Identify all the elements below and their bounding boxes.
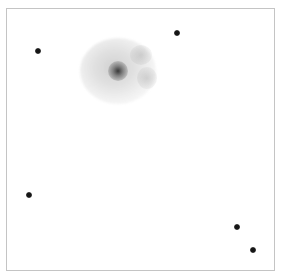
galaxy-core bbox=[108, 61, 128, 81]
star-2 bbox=[174, 30, 180, 36]
image-frame bbox=[6, 8, 275, 271]
galaxy-knot bbox=[130, 45, 152, 65]
star-3 bbox=[26, 192, 32, 198]
galaxy-knot bbox=[137, 67, 157, 89]
star-1 bbox=[35, 48, 41, 54]
star-5 bbox=[250, 247, 256, 253]
astronomical-image bbox=[0, 0, 283, 274]
star-4 bbox=[234, 224, 240, 230]
